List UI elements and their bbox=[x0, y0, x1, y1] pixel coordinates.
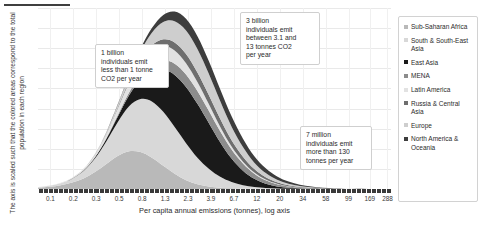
x-tick bbox=[356, 189, 357, 194]
legend-swatch-icon bbox=[404, 88, 408, 92]
x-axis-title: Per capita annual emissions (tonnes), lo… bbox=[38, 206, 391, 215]
x-axis-ticks bbox=[38, 189, 391, 194]
legend-item[interactable]: North America & Oceania bbox=[404, 135, 473, 151]
x-tick bbox=[300, 189, 301, 194]
legend-item[interactable]: South & South-East Asia bbox=[404, 37, 473, 53]
chart-page: The axis is scaled such that the colored… bbox=[0, 0, 482, 226]
legend-item-label: Russia & Central Asia bbox=[411, 100, 473, 116]
x-tick-label: 12 bbox=[253, 195, 260, 202]
x-tick bbox=[265, 189, 266, 194]
legend-swatch-icon bbox=[404, 137, 408, 141]
x-tick bbox=[230, 189, 231, 194]
x-tick-label: 6.7 bbox=[229, 195, 238, 202]
legend-item[interactable]: Sub-Saharan Africa bbox=[404, 23, 473, 31]
x-tick bbox=[144, 189, 145, 194]
x-tick bbox=[315, 189, 316, 194]
x-tick bbox=[38, 189, 39, 194]
x-tick bbox=[341, 189, 342, 194]
x-tick bbox=[149, 189, 150, 194]
x-tick bbox=[346, 189, 347, 194]
x-tick bbox=[305, 189, 306, 194]
legend-swatch-icon bbox=[404, 25, 408, 29]
x-tick bbox=[124, 189, 125, 194]
x-tick-label: 288 bbox=[382, 195, 393, 202]
legend-swatch-icon bbox=[404, 123, 408, 127]
x-tick bbox=[381, 189, 382, 194]
legend-item[interactable]: MENA bbox=[404, 72, 473, 80]
x-tick bbox=[184, 189, 185, 194]
legend-item-label: East Asia bbox=[411, 59, 438, 67]
x-axis-tick-labels: 0.10.20.30.50.81.32.33.96.71220345899169… bbox=[38, 195, 391, 205]
x-tick bbox=[361, 189, 362, 194]
x-tick-label: 99 bbox=[345, 195, 352, 202]
x-tick bbox=[320, 189, 321, 194]
legend-swatch-icon bbox=[404, 74, 408, 78]
x-tick bbox=[209, 189, 210, 194]
x-tick bbox=[189, 189, 190, 194]
legend-item[interactable]: Europe bbox=[404, 122, 473, 130]
legend-item[interactable]: East Asia bbox=[404, 59, 473, 67]
x-tick-label: 0.2 bbox=[69, 195, 78, 202]
legend-swatch-icon bbox=[404, 101, 408, 105]
x-tick bbox=[134, 189, 135, 194]
x-tick-label: 0.1 bbox=[46, 195, 55, 202]
x-tick bbox=[139, 189, 140, 194]
legend-item[interactable]: Russia & Central Asia bbox=[404, 100, 473, 116]
x-tick bbox=[351, 189, 352, 194]
x-tick bbox=[235, 189, 236, 194]
x-tick bbox=[68, 189, 69, 194]
x-tick bbox=[78, 189, 79, 194]
x-tick bbox=[159, 189, 160, 194]
x-tick bbox=[220, 189, 221, 194]
x-tick bbox=[93, 189, 94, 194]
x-tick bbox=[330, 189, 331, 194]
annotation-callout-1: 1 billion individuals emit less than 1 t… bbox=[95, 44, 169, 88]
x-tick bbox=[63, 189, 64, 194]
x-tick-label: 58 bbox=[322, 195, 329, 202]
legend-item-label: Europe bbox=[411, 122, 432, 130]
x-tick bbox=[376, 189, 377, 194]
x-tick bbox=[53, 189, 54, 194]
x-tick-label: 169 bbox=[364, 195, 375, 202]
x-tick bbox=[83, 189, 84, 194]
legend-item-label: South & South-East Asia bbox=[411, 37, 473, 53]
x-tick bbox=[154, 189, 155, 194]
x-tick bbox=[204, 189, 205, 194]
x-tick bbox=[104, 189, 105, 194]
x-tick bbox=[58, 189, 59, 194]
x-tick bbox=[386, 189, 387, 194]
x-tick bbox=[280, 189, 281, 194]
x-tick bbox=[88, 189, 89, 194]
x-tick bbox=[275, 189, 276, 194]
x-tick bbox=[194, 189, 195, 194]
x-tick-label: 0.5 bbox=[115, 195, 124, 202]
x-tick bbox=[245, 189, 246, 194]
x-tick bbox=[199, 189, 200, 194]
x-tick-label: 0.8 bbox=[138, 195, 147, 202]
x-tick bbox=[73, 189, 74, 194]
x-tick bbox=[290, 189, 291, 194]
legend-swatch-icon bbox=[404, 38, 408, 42]
legend: Sub-Saharan AfricaSouth & South-East Asi… bbox=[398, 16, 478, 202]
x-tick bbox=[48, 189, 49, 194]
x-tick bbox=[260, 189, 261, 194]
legend-swatch-icon bbox=[404, 60, 408, 64]
x-tick bbox=[174, 189, 175, 194]
x-tick bbox=[336, 189, 337, 194]
x-tick bbox=[169, 189, 170, 194]
y-axis-label: The axis is scaled such that the colored… bbox=[0, 0, 34, 226]
x-tick bbox=[325, 189, 326, 194]
x-tick bbox=[270, 189, 271, 194]
x-tick bbox=[310, 189, 311, 194]
x-tick bbox=[240, 189, 241, 194]
x-tick bbox=[366, 189, 367, 194]
x-tick bbox=[285, 189, 286, 194]
legend-item[interactable]: Latin America bbox=[404, 86, 473, 94]
x-tick bbox=[179, 189, 180, 194]
x-tick-label: 0.3 bbox=[92, 195, 101, 202]
x-tick bbox=[371, 189, 372, 194]
annotation-callout-3: 7 million individuals emit more than 130… bbox=[300, 126, 372, 170]
x-tick bbox=[129, 189, 130, 194]
x-tick-label: 20 bbox=[276, 195, 283, 202]
x-tick bbox=[119, 189, 120, 194]
